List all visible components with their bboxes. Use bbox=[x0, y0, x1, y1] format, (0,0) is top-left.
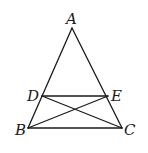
triangle-diagram: A D E B C bbox=[0, 0, 148, 153]
label-c: C bbox=[124, 121, 136, 139]
label-e: E bbox=[110, 87, 122, 105]
segment-dc bbox=[42, 96, 122, 128]
segment-ac bbox=[72, 28, 122, 128]
label-b: B bbox=[14, 121, 26, 139]
label-d: D bbox=[26, 87, 39, 105]
label-a: A bbox=[64, 10, 77, 28]
diagram-svg: A D E B C bbox=[0, 0, 148, 153]
